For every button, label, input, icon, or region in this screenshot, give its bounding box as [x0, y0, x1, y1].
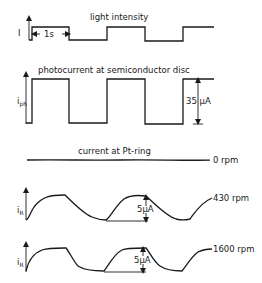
ring-430rpm-trace	[26, 195, 212, 220]
photocurrent-scale-label: 35 μA	[186, 96, 211, 106]
ring-1600-rpm-label: 1600 rpm	[213, 244, 255, 254]
ring-430-rpm-label: 430 rpm	[213, 193, 249, 203]
photocurrent-title: photocurrent at semiconductor disc	[38, 65, 190, 75]
light-axis-label: I	[18, 28, 21, 38]
ring-1600-scale-label: 5μA	[134, 255, 151, 265]
ring-430rpm-panel: iR 5μA 430 rpm	[17, 190, 249, 221]
light-intensity-trace	[29, 27, 214, 41]
ring-430-axis-label: iR	[17, 205, 24, 216]
light-intensity-title: light intensity	[90, 12, 148, 22]
ring-0rpm-label: 0 rpm	[213, 155, 238, 165]
ring-0rpm-panel: current at Pt-ring 0 rpm	[27, 146, 238, 165]
time-marker-label: 1s	[44, 29, 54, 39]
figure: light intensity I 1s photocurrent at sem…	[0, 0, 262, 283]
ring-430-scale-label: 5μA	[137, 204, 154, 214]
photocurrent-panel: photocurrent at semiconductor disc iph 3…	[17, 65, 214, 124]
ring-1600-axis-label: iR	[17, 257, 24, 268]
ring-title: current at Pt-ring	[78, 146, 151, 156]
ring-1600rpm-panel: iR 5μA 1600 rpm	[17, 244, 255, 272]
ring-1600rpm-trace	[26, 248, 212, 271]
light-intensity-panel: light intensity I 1s	[18, 12, 214, 41]
